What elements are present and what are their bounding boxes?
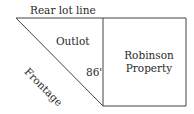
rear-lot-line-label: Rear lot line	[30, 5, 96, 16]
outlot-label: Outlot	[56, 36, 90, 47]
property-label-line1: Robinson	[118, 49, 180, 62]
dimension-label: 86'	[86, 67, 102, 78]
property-label: Robinson Property	[118, 49, 180, 75]
frontage-line	[16, 18, 103, 106]
property-label-line2: Property	[118, 62, 180, 75]
lot-diagram: Rear lot line Outlot 86' Frontage Robins…	[0, 0, 194, 114]
